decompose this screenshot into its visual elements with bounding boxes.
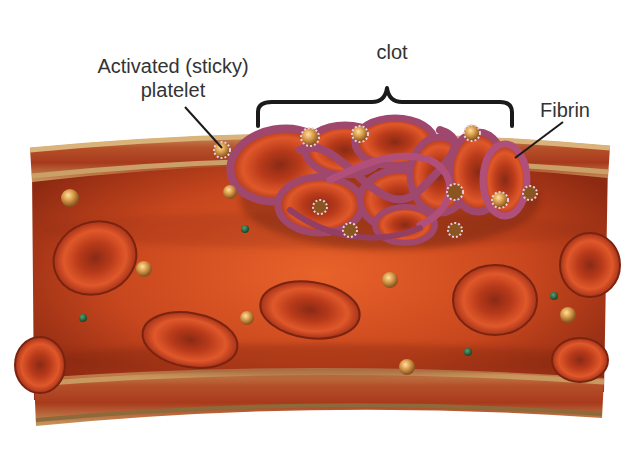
activated-platelet-label: Activated (sticky) platelet <box>78 54 268 102</box>
activated-platelet <box>464 125 480 141</box>
platelet-label-line1: Activated (sticky) <box>78 54 268 78</box>
activated-platelet <box>352 126 368 142</box>
activated-platelet <box>448 223 462 237</box>
red-blood-cell <box>552 338 608 382</box>
platelet <box>240 311 254 325</box>
white-cell <box>241 225 249 233</box>
activated-platelet <box>313 200 327 214</box>
red-blood-cell <box>15 337 65 393</box>
white-cell <box>79 314 87 322</box>
activated-platelet <box>447 184 463 200</box>
activated-platelet <box>223 185 237 199</box>
white-cell <box>464 348 472 356</box>
platelet <box>61 189 79 207</box>
platelet <box>136 261 152 277</box>
platelet <box>560 307 576 323</box>
activated-platelet <box>523 186 537 200</box>
clot-label: clot <box>362 40 422 64</box>
activated-platelet <box>343 223 357 237</box>
platelet <box>399 359 415 375</box>
activated-platelet <box>492 192 508 208</box>
red-blood-cell <box>453 265 537 335</box>
activated-platelet <box>301 128 319 146</box>
white-cell <box>550 292 558 300</box>
platelet-label-line2: platelet <box>78 78 268 102</box>
platelet <box>382 272 398 288</box>
activated-platelet <box>214 142 230 158</box>
fibrin-label: Fibrin <box>530 98 600 122</box>
red-blood-cell <box>560 233 620 297</box>
